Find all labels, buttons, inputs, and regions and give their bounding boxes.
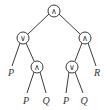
edges [12,14,96,93]
expression-tree-diagram: ∧ ∨ ∧ ∧ ∨ P P Q P Q R [0,0,107,110]
and-symbol: ∧ [34,63,40,72]
node-left-right: ∧ [31,61,43,73]
leaf-q: Q [42,95,50,106]
node-right: ∧ [79,32,91,44]
and-symbol: ∧ [82,34,88,43]
node-right-left: ∨ [66,61,78,73]
edge-or-leaf-p [66,72,69,93]
node-left: ∨ [17,32,29,44]
leaf-q: Q [80,95,88,106]
or-symbol: ∨ [69,63,75,72]
tree-svg: ∧ ∨ ∧ ∧ ∨ P P Q P Q R [0,0,107,110]
leaf-p: P [7,67,14,78]
leaf-p: P [22,95,29,106]
edge-left-and [26,43,34,61]
edge-or-leaf-q [75,72,83,93]
edge-right-leaf-r [88,43,96,66]
node-root: ∧ [48,5,60,17]
edge-root-right [59,14,80,34]
leaf-r: R [93,67,100,78]
edge-left-leaf-p [12,43,20,66]
or-symbol: ∨ [20,34,26,43]
and-symbol: ∧ [51,7,57,16]
leaf-p: P [62,95,69,106]
edge-and-leaf-p [27,72,34,93]
edge-root-left [28,14,49,34]
edge-and-leaf-q [40,72,46,93]
edge-right-or [75,43,82,61]
